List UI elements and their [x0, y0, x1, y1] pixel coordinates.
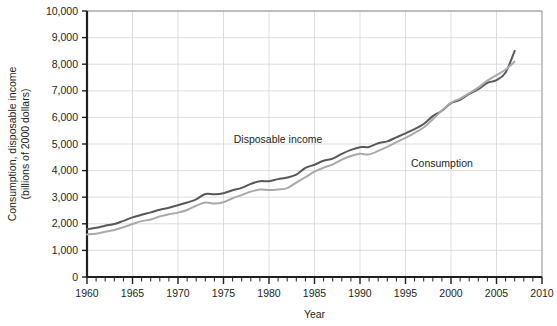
x-tick-label: 1990	[348, 287, 372, 299]
y-tick-label: 2,000	[52, 217, 78, 229]
x-tick-label: 1960	[75, 287, 99, 299]
annotation-consumption: Consumption	[411, 157, 473, 169]
x-tick-label: 2000	[439, 287, 463, 299]
x-tick-label: 1965	[121, 287, 145, 299]
y-tick-label: 7,000	[52, 84, 78, 96]
line-chart: 01,0002,0003,0004,0005,0006,0007,0008,00…	[0, 0, 557, 326]
x-tick-label: 2010	[530, 287, 554, 299]
y-axis-title-line1: Consumption, disposable income	[6, 67, 18, 222]
y-tick-label: 3,000	[52, 191, 78, 203]
x-tick-label: 1980	[257, 287, 281, 299]
y-tick-label: 5,000	[52, 138, 78, 150]
y-tick-label: 9,000	[52, 31, 78, 43]
x-axis-title: Year	[304, 308, 326, 320]
x-tick-label: 1970	[166, 287, 190, 299]
y-tick-label: 4,000	[52, 164, 78, 176]
y-tick-label: 8,000	[52, 58, 78, 70]
chart-page: 01,0002,0003,0004,0005,0006,0007,0008,00…	[0, 0, 557, 326]
x-tick-label: 1995	[394, 287, 418, 299]
y-tick-label: 1,000	[52, 244, 78, 256]
x-tick-label: 1985	[303, 287, 327, 299]
y-axis-title-line2: (billions of 2000 dollars)	[19, 89, 31, 200]
x-tick-label: 1975	[212, 287, 236, 299]
y-tick-label: 10,000	[46, 5, 78, 17]
y-tick-label: 6,000	[52, 111, 78, 123]
annotation-disposable-income: Disposable income	[234, 133, 323, 145]
y-tick-label: 0	[72, 271, 78, 283]
x-tick-label: 2005	[485, 287, 509, 299]
